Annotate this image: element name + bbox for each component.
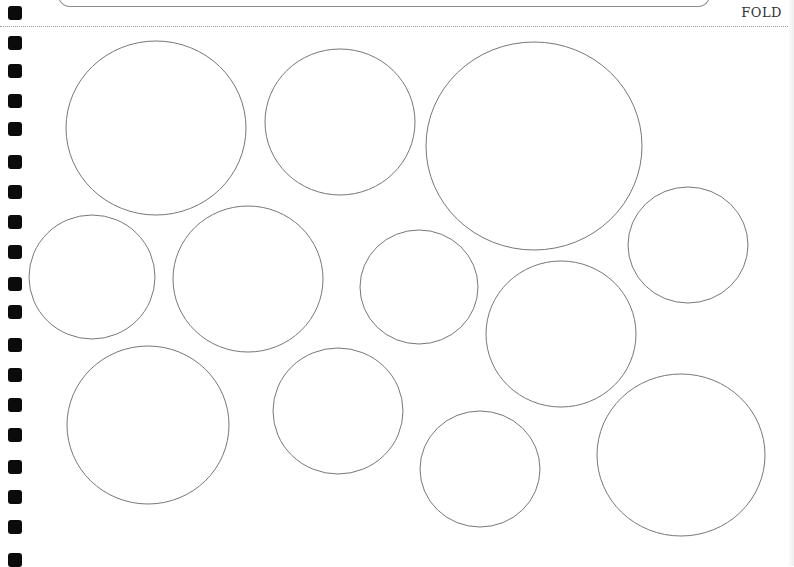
circle-outline [597,374,765,536]
circle-outline [360,230,478,344]
circle-outline [426,42,642,250]
circle-outline [29,215,155,339]
circle-outline [628,187,748,303]
circle-outline [486,261,636,407]
circle-outline [173,206,323,352]
circle-outline [265,49,415,195]
circle-outline [67,346,229,504]
circle-outline [420,411,540,527]
page-edge-shadow [788,0,794,566]
circle-outline [273,348,403,474]
circle-outline [66,41,246,215]
